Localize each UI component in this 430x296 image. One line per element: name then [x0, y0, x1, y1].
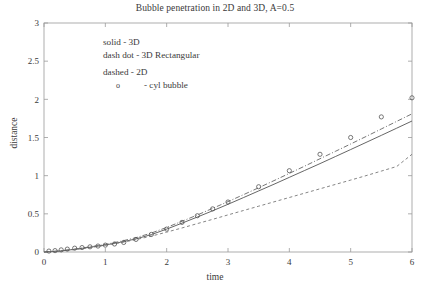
legend-marker-label: - cyl bubble: [144, 80, 188, 90]
x-tick-label: 6: [410, 257, 415, 267]
legend-entry-solid: solid - 3D: [103, 36, 199, 49]
data-point-marker: [287, 169, 291, 173]
y-tick-label: 0: [35, 247, 40, 257]
legend-entry-marker: o- cyl bubble: [103, 79, 199, 92]
y-tick-label: 1: [35, 171, 40, 181]
plot-frame: [44, 23, 412, 252]
data-point-marker: [379, 115, 383, 119]
data-point-marker: [318, 152, 322, 156]
x-tick-label: 1: [103, 257, 108, 267]
chart-figure: Bubble penetration in 2D and 3D, A=0.5 0…: [0, 0, 430, 296]
series-line-2d: [44, 154, 412, 252]
x-tick-labels: 0123456: [42, 257, 415, 267]
x-tick-label: 2: [164, 257, 169, 267]
chart-legend: solid - 3D dash dot - 3D Rectangular das…: [103, 36, 199, 92]
circle-marker-icon: o: [116, 80, 144, 91]
series-lines: [44, 114, 412, 252]
y-tick-label: 1.5: [28, 133, 40, 143]
data-point-marker: [80, 245, 84, 249]
y-tick-label: 2.5: [28, 56, 40, 66]
y-tick-label: 2: [35, 95, 40, 105]
legend-entry-dashed: dashed - 2D: [103, 66, 199, 79]
marker-points: [47, 96, 414, 253]
y-tick-labels: 00.511.522.53: [28, 18, 40, 257]
data-point-marker: [47, 249, 51, 253]
y-tick-marks: [44, 23, 412, 252]
x-tick-label: 0: [42, 257, 47, 267]
x-tick-label: 4: [287, 257, 292, 267]
y-axis-label: distance: [9, 103, 19, 163]
x-axis-label: time: [0, 272, 430, 282]
plot-area: 0123456 00.511.522.53: [0, 0, 430, 296]
series-line-3d-rectangular: [44, 114, 412, 252]
x-tick-label: 3: [226, 257, 231, 267]
x-tick-marks: [44, 23, 412, 252]
y-tick-label: 0.5: [28, 209, 40, 219]
y-tick-label: 3: [35, 18, 40, 28]
data-point-marker: [349, 135, 353, 139]
x-tick-label: 5: [348, 257, 353, 267]
axes-frame: [44, 23, 412, 252]
legend-entry-dashdot: dash dot - 3D Rectangular: [103, 49, 199, 62]
